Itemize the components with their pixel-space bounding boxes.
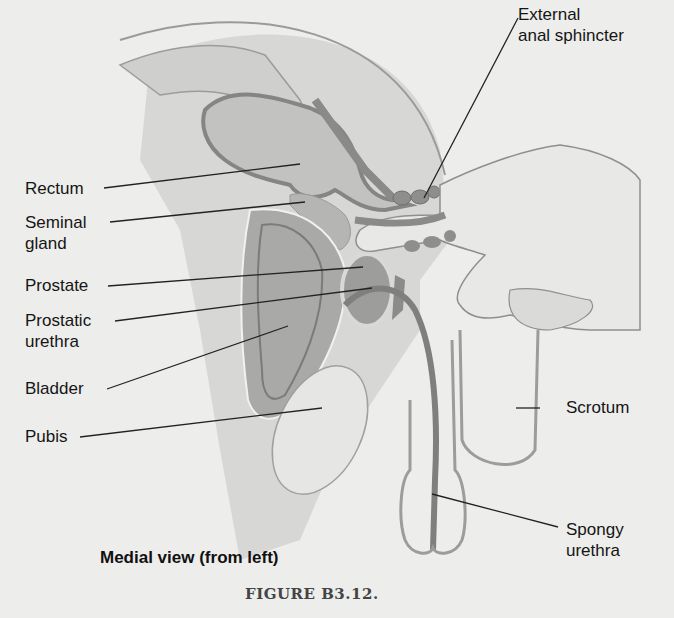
label-external-anal-sphincter: External anal sphincter bbox=[518, 4, 624, 46]
label-scrotum: Scrotum bbox=[566, 397, 629, 418]
label-pubis: Pubis bbox=[25, 426, 68, 447]
label-line-1: Prostatic bbox=[25, 310, 91, 331]
label-line-1: Pubis bbox=[25, 426, 68, 447]
label-spongy-urethra: Spongy urethra bbox=[566, 519, 624, 561]
figure-caption: FIGURE B3.12. bbox=[245, 585, 379, 603]
label-rectum: Rectum bbox=[25, 178, 84, 199]
figure-view-title: Medial view (from left) bbox=[100, 548, 279, 568]
label-line-1: Rectum bbox=[25, 178, 84, 199]
label-line-1: Spongy bbox=[566, 519, 624, 540]
label-line-1: Prostate bbox=[25, 275, 88, 296]
label-line-2: urethra bbox=[566, 540, 624, 561]
external-anal-sphincter bbox=[393, 191, 411, 205]
label-prostatic-urethra: Prostatic urethra bbox=[25, 310, 91, 352]
sphincter-lower-2 bbox=[423, 236, 441, 248]
leader-spongy-urethra bbox=[432, 494, 558, 527]
label-line-1: Seminal bbox=[25, 212, 86, 233]
external-anal-sphincter-2 bbox=[411, 190, 429, 204]
label-line-2: gland bbox=[25, 233, 86, 254]
label-line-1: Bladder bbox=[25, 378, 84, 399]
label-line-1: Scrotum bbox=[566, 397, 629, 418]
sphincter-lower-1 bbox=[404, 240, 420, 252]
label-line-2: urethra bbox=[25, 331, 91, 352]
label-line-2: anal sphincter bbox=[518, 25, 624, 46]
label-line-1: External bbox=[518, 4, 624, 25]
label-prostate: Prostate bbox=[25, 275, 88, 296]
label-seminal-gland: Seminal gland bbox=[25, 212, 86, 254]
scrotum-outline bbox=[460, 330, 538, 464]
label-bladder: Bladder bbox=[25, 378, 84, 399]
sphincter-lower-3 bbox=[444, 230, 456, 242]
